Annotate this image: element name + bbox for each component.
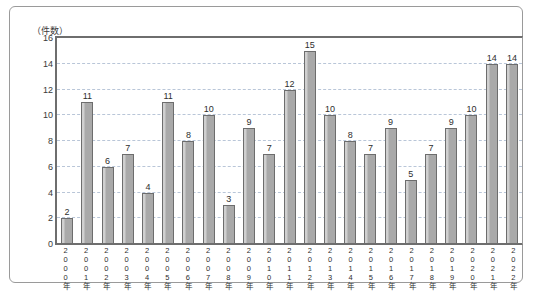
x-axis-tick-label: 2022年 <box>509 246 517 290</box>
bar-rect[interactable] <box>223 205 235 244</box>
x-axis-tick: 2012年 <box>299 245 319 289</box>
x-axis-tick-label: 2009年 <box>244 246 252 290</box>
y-axis-tick-label: 14 <box>43 59 53 69</box>
bar-value-label: 15 <box>305 40 315 50</box>
bar-item[interactable]: 7 <box>421 38 441 244</box>
bar-item[interactable]: 4 <box>138 38 158 244</box>
x-axis-tick-label: 2021年 <box>488 246 496 290</box>
bar-value-label: 7 <box>368 143 373 153</box>
bar-item[interactable]: 12 <box>279 38 299 244</box>
x-axis-tick: 2017年 <box>401 245 421 289</box>
bar-value-label: 9 <box>388 117 393 127</box>
x-axis-labels: 2000年2001年2002年2003年2004年2005年2006年2007年… <box>55 245 523 289</box>
bar-rect[interactable] <box>486 64 498 244</box>
bar-rect[interactable] <box>243 128 255 244</box>
x-axis-tick-label: 2016年 <box>387 246 395 290</box>
y-axis-tick-label: 6 <box>48 162 53 172</box>
bar-rect[interactable] <box>385 128 397 244</box>
bar-rect[interactable] <box>102 167 114 244</box>
x-axis-tick: 2021年 <box>482 245 502 289</box>
x-axis-tick: 2022年 <box>503 245 523 289</box>
bar-value-label: 4 <box>145 182 150 192</box>
bar-value-label: 14 <box>507 53 517 63</box>
bar-rect[interactable] <box>405 180 417 244</box>
x-axis-tick-label: 2013年 <box>326 246 334 290</box>
bar-item[interactable]: 2 <box>57 38 77 244</box>
bar-rect[interactable] <box>81 102 93 244</box>
x-axis-tick-label: 2006年 <box>183 246 191 290</box>
bar-item[interactable]: 15 <box>300 38 320 244</box>
x-axis-tick: 2018年 <box>421 245 441 289</box>
x-axis-tick-label: 2019年 <box>448 246 456 290</box>
bar-value-label: 10 <box>204 104 214 114</box>
bar-item[interactable]: 11 <box>158 38 178 244</box>
x-axis-tick: 2004年 <box>136 245 156 289</box>
x-axis-tick-label: 2020年 <box>468 246 476 290</box>
bar-value-label: 3 <box>226 194 231 204</box>
x-axis-tick: 2000年 <box>55 245 75 289</box>
bar-value-label: 8 <box>186 130 191 140</box>
bar-rect[interactable] <box>506 64 518 244</box>
bar-item[interactable]: 7 <box>259 38 279 244</box>
x-axis-tick-label: 2012年 <box>305 246 313 290</box>
x-axis-tick: 2014年 <box>340 245 360 289</box>
x-axis-tick-label: 2017年 <box>407 246 415 290</box>
bar-item[interactable]: 14 <box>482 38 502 244</box>
x-axis-tick: 2016年 <box>381 245 401 289</box>
bar-rect[interactable] <box>263 154 275 244</box>
bar-rect[interactable] <box>203 115 215 244</box>
bar-item[interactable]: 8 <box>178 38 198 244</box>
bar-item[interactable]: 11 <box>77 38 97 244</box>
bar-rect[interactable] <box>445 128 457 244</box>
bar-item[interactable]: 5 <box>401 38 421 244</box>
bar-item[interactable]: 3 <box>219 38 239 244</box>
bar-rect[interactable] <box>465 115 477 244</box>
bar-item[interactable]: 8 <box>340 38 360 244</box>
bar-value-label: 7 <box>429 143 434 153</box>
bar-rect[interactable] <box>162 102 174 244</box>
bar-rect[interactable] <box>284 90 296 245</box>
x-axis-tick-label: 2007年 <box>204 246 212 290</box>
y-axis-tick-label: 10 <box>43 110 53 120</box>
bar-item[interactable]: 14 <box>502 38 522 244</box>
bar-item[interactable]: 7 <box>118 38 138 244</box>
bar-rect[interactable] <box>182 141 194 244</box>
bar-value-label: 8 <box>348 130 353 140</box>
bar-value-label: 10 <box>325 104 335 114</box>
bar-value-label: 12 <box>285 79 295 89</box>
x-axis-tick: 2020年 <box>462 245 482 289</box>
x-axis-tick: 2010年 <box>258 245 278 289</box>
chart-figure-frame: （件数） 0246810121416 211674118103971215108… <box>9 6 523 283</box>
bar-rect[interactable] <box>344 141 356 244</box>
bar-rect[interactable] <box>324 115 336 244</box>
bar-item[interactable]: 7 <box>360 38 380 244</box>
x-axis-tick: 2011年 <box>279 245 299 289</box>
bar-item[interactable]: 6 <box>97 38 117 244</box>
x-axis-tick-label: 2003年 <box>122 246 130 290</box>
bar-rect[interactable] <box>142 193 154 245</box>
bar-item[interactable]: 9 <box>441 38 461 244</box>
plot-area: 0246810121416 21167411810397121510879579… <box>55 36 523 245</box>
bar-item[interactable]: 9 <box>239 38 259 244</box>
bar-item[interactable]: 10 <box>461 38 481 244</box>
bar-value-label: 9 <box>449 117 454 127</box>
bar-value-label: 11 <box>164 91 173 101</box>
x-axis-tick-label: 2011年 <box>285 246 293 290</box>
bar-rect[interactable] <box>304 51 316 244</box>
bar-rect[interactable] <box>61 218 73 244</box>
x-axis-tick-label: 2008年 <box>224 246 232 290</box>
y-axis-tick-label: 16 <box>43 33 53 43</box>
bar-item[interactable]: 10 <box>320 38 340 244</box>
bar-item[interactable]: 9 <box>381 38 401 244</box>
bar-rect[interactable] <box>122 154 134 244</box>
x-axis-tick: 2009年 <box>238 245 258 289</box>
x-axis-tick: 2001年 <box>75 245 95 289</box>
x-axis-tick: 2002年 <box>96 245 116 289</box>
bar-value-label: 2 <box>65 207 70 217</box>
bar-rect[interactable] <box>364 154 376 244</box>
x-axis-tick-label: 2000年 <box>61 246 69 290</box>
bar-item[interactable]: 10 <box>199 38 219 244</box>
x-axis-tick: 2013年 <box>319 245 339 289</box>
bar-rect[interactable] <box>425 154 437 244</box>
bar-value-label: 6 <box>105 156 110 166</box>
